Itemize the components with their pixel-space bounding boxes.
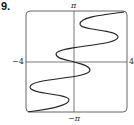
x-max-label: 4 xyxy=(129,57,134,66)
plot-frame xyxy=(26,11,127,112)
y-max-label: π xyxy=(71,1,76,10)
y-min-label: −π xyxy=(68,114,80,123)
x-min-label: −4 xyxy=(12,57,24,66)
